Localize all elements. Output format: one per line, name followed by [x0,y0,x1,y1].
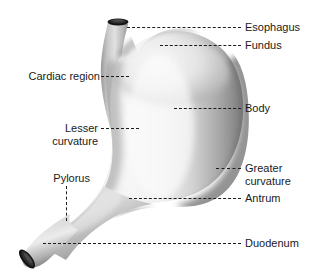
leader-line-lesser-curvature [101,128,139,129]
label-fundus: Fundus [245,39,282,52]
leader-line-pylorus [66,186,67,221]
leader-line-esophagus [127,27,241,28]
label-body: Body [245,102,270,115]
stomach-anatomy-figure: Esophagus Fundus Cardiac region Body Les… [0,0,322,275]
leader-line-body [174,108,241,109]
label-antrum: Antrum [245,192,280,205]
label-cardiac-region: Cardiac region [0,70,100,83]
label-lesser-curvature: Lesser curvature [0,122,98,147]
label-lesser-curvature-line1: Lesser [65,122,98,134]
leader-line-fundus [160,45,241,46]
leader-line-duodenum [43,243,241,244]
leader-line-cardiac-region [101,76,129,77]
label-greater-curvature-line1: Greater [245,162,282,174]
label-greater-curvature: Greater curvature [245,162,291,187]
label-lesser-curvature-line2: curvature [0,135,98,148]
leader-line-greater-curvature [216,168,241,169]
label-pylorus: Pylorus [10,172,90,185]
label-esophagus: Esophagus [245,21,300,34]
label-greater-curvature-line2: curvature [245,175,291,188]
leader-line-antrum [129,198,241,199]
label-duodenum: Duodenum [245,237,299,250]
